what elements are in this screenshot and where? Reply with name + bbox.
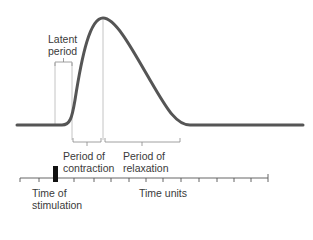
stimulation-line2: stimulation: [32, 199, 82, 211]
contraction-label: Period of contraction: [63, 150, 114, 174]
time-units-label: Time units: [139, 187, 187, 199]
relaxation-line1: Period of: [123, 150, 169, 162]
latent-period-label: Latent period: [48, 33, 77, 57]
relaxation-label: Period of relaxation: [123, 150, 169, 174]
stimulation-label: Time of stimulation: [32, 187, 82, 211]
latent-line1: Latent: [48, 33, 77, 45]
contraction-line2: contraction: [63, 162, 114, 174]
relaxation-line2: relaxation: [123, 162, 169, 174]
stimulation-line1: Time of: [32, 187, 82, 199]
stimulus-marker: [53, 166, 58, 182]
latent-line2: period: [48, 45, 77, 57]
latent-bracket: [55, 58, 72, 66]
contraction-line1: Period of: [63, 150, 114, 162]
relaxation-bracket: [105, 138, 180, 146]
contraction-bracket: [73, 138, 101, 146]
